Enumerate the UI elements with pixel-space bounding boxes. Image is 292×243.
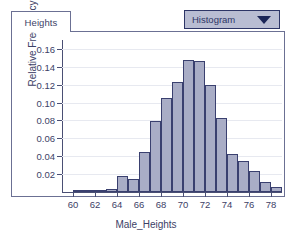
plot-type-dropdown-value: Histogram xyxy=(192,14,257,25)
histogram-bar xyxy=(183,60,194,192)
histogram-bar xyxy=(249,171,260,192)
y-tick-mark xyxy=(57,138,62,139)
histogram-bar xyxy=(205,85,216,192)
y-tick-mark xyxy=(57,156,62,157)
x-tick-mark xyxy=(117,192,118,197)
y-axis-line xyxy=(62,40,63,192)
x-tick-label: 68 xyxy=(156,199,167,210)
y-tick-label: 0.14 xyxy=(37,61,56,72)
histogram-bar xyxy=(194,61,205,192)
y-tick-mark xyxy=(57,49,62,50)
histogram-bar xyxy=(139,152,150,192)
histogram-bar xyxy=(216,118,227,192)
y-tick-mark xyxy=(57,67,62,68)
histogram-bar xyxy=(128,179,139,192)
histogram-bar xyxy=(161,98,172,192)
x-tick-mark xyxy=(95,192,96,197)
histogram-bar xyxy=(238,161,249,192)
x-tick-mark xyxy=(161,192,162,197)
histogram-bar xyxy=(172,82,183,192)
plot-area: 0.020.040.060.080.100.120.140.1660626466… xyxy=(62,40,282,192)
y-tick-mark xyxy=(57,174,62,175)
histogram-bar xyxy=(271,187,282,192)
x-tick-label: 60 xyxy=(68,199,79,210)
x-tick-label: 62 xyxy=(90,199,101,210)
y-tick-label: 0.16 xyxy=(37,43,56,54)
y-tick-mark xyxy=(57,85,62,86)
chevron-down-icon xyxy=(257,16,271,24)
x-tick-mark xyxy=(183,192,184,197)
x-tick-label: 72 xyxy=(200,199,211,210)
y-tick-label: 0.08 xyxy=(37,115,56,126)
x-tick-label: 64 xyxy=(112,199,123,210)
plot-type-dropdown[interactable]: Histogram xyxy=(184,10,280,29)
y-tick-label: 0.02 xyxy=(37,169,56,180)
x-axis-title: Male_Heights xyxy=(0,219,292,230)
x-tick-mark xyxy=(249,192,250,197)
histogram-bar xyxy=(95,190,106,192)
x-tick-label: 70 xyxy=(178,199,189,210)
y-tick-label: 0.10 xyxy=(37,97,56,108)
gridline xyxy=(62,67,282,68)
histogram-bar xyxy=(150,121,161,192)
x-tick-mark xyxy=(73,192,74,197)
x-tick-label: 76 xyxy=(244,199,255,210)
x-tick-label: 66 xyxy=(134,199,145,210)
y-tick-mark xyxy=(57,103,62,104)
tab-heights[interactable]: Heights xyxy=(11,11,71,32)
x-tick-mark xyxy=(271,192,272,197)
histogram-bar xyxy=(260,182,271,192)
y-tick-mark xyxy=(57,120,62,121)
histogram-bar xyxy=(84,190,95,192)
tab-heights-label: Heights xyxy=(25,17,58,28)
x-tick-mark xyxy=(205,192,206,197)
histogram-bar xyxy=(117,176,128,192)
x-tick-label: 74 xyxy=(222,199,233,210)
y-tick-label: 0.06 xyxy=(37,133,56,144)
histogram-bar xyxy=(227,154,238,192)
x-tick-mark xyxy=(227,192,228,197)
x-tick-label: 78 xyxy=(266,199,277,210)
y-tick-label: 0.04 xyxy=(37,151,56,162)
gridline xyxy=(62,49,282,50)
histogram-bar xyxy=(73,190,84,192)
x-tick-mark xyxy=(139,192,140,197)
y-tick-label: 0.12 xyxy=(37,79,56,90)
histogram-bar xyxy=(106,189,117,192)
histogram-viewer: Heights Histogram Relative Frequency Mal… xyxy=(0,0,292,243)
